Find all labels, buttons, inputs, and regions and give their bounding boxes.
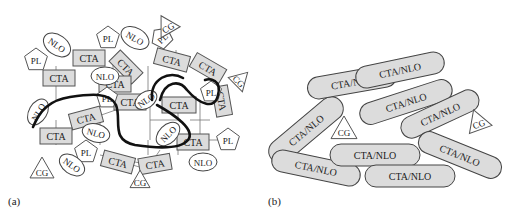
panel-b-pills: CTA/NLOCTA/NLOCTA/NLOCTA/NLOCTA/NLOCTA/N… [264, 50, 505, 188]
shape-label: CTA/NLO [354, 150, 397, 161]
cta-box: CTA [154, 48, 191, 72]
pl-pentagon: PL [97, 26, 120, 48]
shape-label: NLO [194, 158, 213, 168]
cta-box: CTA [138, 153, 172, 174]
nlo-ellipse: NLO [189, 153, 217, 171]
shape-label: PL [103, 34, 114, 44]
cta-nlo-pill: CTA/NLO [365, 165, 455, 187]
cta-nlo-pill: CTA/NLO [330, 144, 420, 166]
cta-box: CTA [43, 70, 75, 86]
nlo-ellipse: NLO [91, 67, 119, 85]
cta-box: CTA [100, 150, 135, 174]
shape-label: PL [31, 56, 42, 66]
shape-label: PL [81, 148, 92, 158]
shape-label: PL [206, 88, 217, 98]
pl-pentagon: PL [25, 48, 48, 70]
panel-label-a: (a) [8, 195, 21, 208]
nlo-ellipse: NLO [117, 22, 153, 54]
diagram-canvas: CTACTACTACTACTACTACTACTACTACTACTACTACTAC… [0, 0, 528, 218]
cg-triangle: CG [228, 65, 255, 92]
shape-label: CTA/NLO [389, 171, 432, 182]
shape-label: CTA [46, 131, 66, 142]
cg-triangle: CG [30, 157, 54, 178]
nlo-ellipse: NLO [23, 95, 53, 128]
cta-box: CTA [177, 134, 209, 150]
cta-box: CTA [73, 50, 105, 66]
shape-label: CG [134, 178, 147, 188]
shape-label: CG [338, 128, 351, 138]
pl-pentagon: PL [217, 128, 240, 150]
panel-labels: (a)(b) [8, 195, 281, 208]
shape-label: CTA [79, 53, 99, 64]
shape-label: PL [223, 136, 234, 146]
panel-label-b: (b) [268, 195, 281, 208]
shape-label: NLO [96, 72, 115, 82]
shape-label: CG [36, 168, 49, 178]
cta-box: CTA [40, 128, 72, 144]
shape-label: CTA [49, 73, 69, 84]
shape-label: CTA [169, 100, 189, 111]
